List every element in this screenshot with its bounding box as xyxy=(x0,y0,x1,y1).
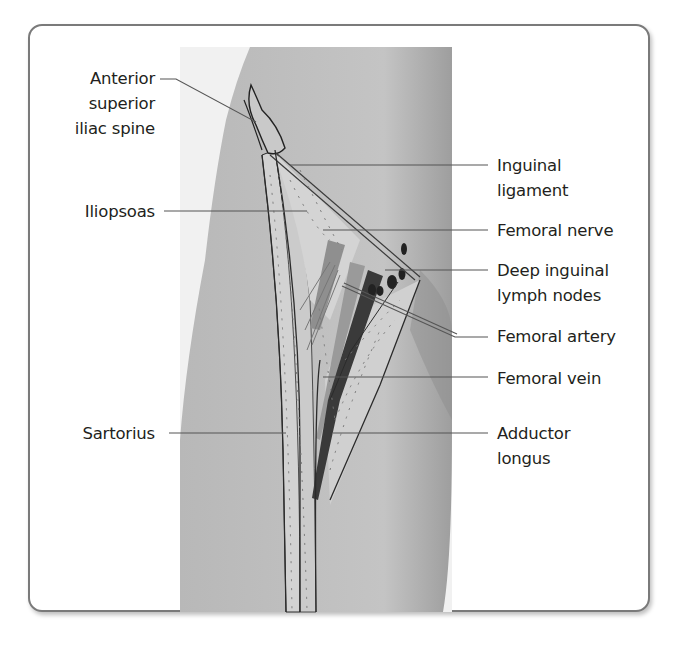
label-deep-inguinal-lymph-nodes: Deep inguinal lymph nodes xyxy=(497,258,609,308)
label-adductor-longus: Adductor longus xyxy=(497,421,570,471)
label-femoral-artery: Femoral artery xyxy=(497,324,616,349)
label-inguinal-ligament: Inguinal ligament xyxy=(497,153,568,203)
label-iliopsoas: Iliopsoas xyxy=(85,199,155,224)
label-femoral-vein: Femoral vein xyxy=(497,366,601,391)
lymph-node-icon xyxy=(387,275,397,289)
label-sartorius: Sartorius xyxy=(82,421,155,446)
label-anterior-superior-iliac-spine: Anterior superior iliac spine xyxy=(75,66,155,141)
label-femoral-nerve: Femoral nerve xyxy=(497,218,613,243)
